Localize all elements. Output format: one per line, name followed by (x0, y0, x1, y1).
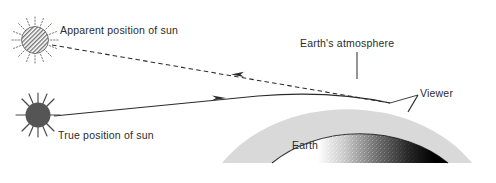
label-viewer: Viewer (420, 88, 453, 99)
viewer-marker (390, 95, 418, 112)
label-true-position-of-sun: True position of sun (58, 130, 154, 141)
true-sun (16, 93, 60, 137)
apparent-sun (11, 16, 59, 64)
label-earth: Earth (292, 140, 318, 151)
label-earths-atmosphere: Earth's atmosphere (300, 38, 394, 49)
refraction-diagram: Apparent position of sun True position o… (0, 0, 496, 183)
apparent-light-ray (52, 45, 390, 103)
label-apparent-position-of-sun: Apparent position of sun (60, 25, 178, 36)
